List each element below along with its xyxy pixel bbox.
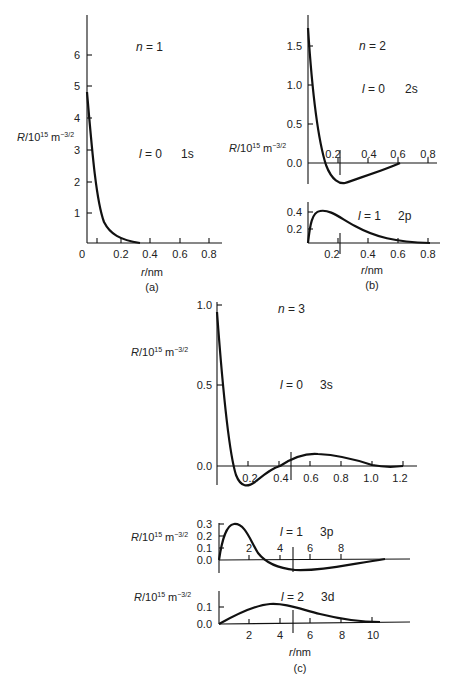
svg-text:0.4: 0.4 — [273, 472, 288, 484]
svg-text:0.8: 0.8 — [420, 248, 435, 260]
svg-text:0.6: 0.6 — [303, 472, 318, 484]
svg-text:1.0: 1.0 — [363, 472, 378, 484]
svg-text:6: 6 — [307, 542, 313, 554]
svg-text:1.5: 1.5 — [287, 40, 302, 52]
y-label-a: R/1015 m−3/2 — [17, 131, 74, 143]
panel-b-2p-labels: 0.4 0.2 0.2 0.4 0.6 0.8 l = 1 2p r/nm (b… — [287, 206, 436, 291]
svg-text:0.5: 0.5 — [197, 379, 212, 391]
svg-text:6: 6 — [307, 629, 313, 641]
l-label-a: l = 0 — [139, 147, 162, 161]
svg-text:6: 6 — [74, 49, 80, 61]
caption-a: (a) — [145, 281, 158, 293]
x-label-a: r/nm — [141, 266, 163, 278]
svg-text:1.0: 1.0 — [287, 79, 302, 91]
orbital-1s: 1s — [181, 147, 194, 161]
panel-b-2s-labels: 0.0 0.5 1.0 1.5 0.2 0.4 0.6 0.8 R/1015 m… — [229, 39, 436, 169]
l-label-3d: l = 2 — [281, 590, 304, 604]
svg-text:0.4: 0.4 — [142, 248, 157, 260]
orbital-3s: 3s — [320, 378, 333, 392]
svg-text:0.8: 0.8 — [420, 148, 435, 160]
svg-text:2: 2 — [74, 176, 80, 188]
svg-text:2: 2 — [246, 542, 252, 554]
svg-text:0.0: 0.0 — [197, 618, 212, 630]
svg-text:3: 3 — [74, 144, 80, 156]
l-label-3s: l = 0 — [280, 378, 303, 392]
orbital-3d: 3d — [321, 590, 334, 604]
svg-text:1.0: 1.0 — [197, 299, 212, 311]
svg-text:0.6: 0.6 — [390, 148, 405, 160]
orbital-2p: 2p — [398, 209, 412, 223]
svg-text:0.8: 0.8 — [333, 472, 348, 484]
orbital-2s: 2s — [405, 82, 418, 96]
svg-text:0: 0 — [79, 248, 85, 260]
svg-text:0.4: 0.4 — [287, 206, 302, 218]
curve-2s — [308, 28, 400, 183]
l-label-2s: l = 0 — [362, 82, 385, 96]
panel-c-3s-labels: 0.0 0.5 1.0 0.2 0.4 0.6 0.8 1.0 1.2 R/10… — [131, 299, 408, 484]
svg-text:0.2: 0.2 — [197, 530, 212, 542]
curve-3s — [217, 312, 403, 485]
svg-text:1.2: 1.2 — [392, 472, 407, 484]
svg-text:0.0: 0.0 — [197, 460, 212, 472]
svg-text:4: 4 — [277, 629, 283, 641]
svg-text:5: 5 — [74, 80, 80, 92]
svg-text:0.0: 0.0 — [287, 157, 302, 169]
y-label-c-3p: R/1015 m−3/2 — [131, 531, 188, 543]
l-label-3p: l = 1 — [280, 525, 303, 539]
n-label-c: n = 3 — [278, 302, 305, 316]
n-label-b: n = 2 — [359, 39, 386, 53]
panel-c-3d-labels: 0.0 0.1 2 4 6 8 10 R/1015 m−3/2 l = 2 3d… — [134, 590, 379, 674]
svg-text:2: 2 — [246, 629, 252, 641]
y-label-b: R/1015 m−3/2 — [229, 142, 286, 154]
caption-b: (b) — [365, 279, 378, 291]
curve-1s — [87, 92, 140, 243]
y-label-c-3d: R/1015 m−3/2 — [134, 591, 191, 603]
svg-text:0.5: 0.5 — [287, 118, 302, 130]
panel-c-3s — [217, 302, 417, 485]
x-label-c: r/nm — [289, 646, 311, 658]
svg-text:8: 8 — [338, 542, 344, 554]
svg-text:8: 8 — [339, 629, 345, 641]
panel-a-labels: 1 2 3 4 5 6 0 0.2 0.4 0.6 0.8 R/1015 m−3… — [17, 40, 217, 293]
panel-c-3d — [219, 591, 410, 633]
n-label-a: n = 1 — [136, 40, 163, 54]
svg-text:0.4: 0.4 — [361, 148, 376, 160]
svg-text:0.0: 0.0 — [197, 554, 212, 566]
l-label-2p: l = 1 — [358, 209, 381, 223]
svg-text:0.2: 0.2 — [287, 223, 302, 235]
orbital-3p: 3p — [320, 525, 334, 539]
curve-3d — [219, 604, 380, 624]
svg-text:0.4: 0.4 — [360, 248, 375, 260]
svg-text:0.6: 0.6 — [172, 248, 187, 260]
svg-text:4: 4 — [277, 542, 283, 554]
svg-text:0.2: 0.2 — [325, 148, 340, 160]
svg-text:0.3: 0.3 — [197, 518, 212, 530]
svg-text:0.2: 0.2 — [242, 472, 257, 484]
svg-text:0.2: 0.2 — [324, 248, 339, 260]
svg-text:0.6: 0.6 — [390, 248, 405, 260]
svg-text:1: 1 — [74, 207, 80, 219]
x-axis-c-3d — [219, 622, 410, 624]
caption-c: (c) — [294, 662, 307, 674]
svg-text:10: 10 — [367, 629, 379, 641]
y-label-c-3s: R/1015 m−3/2 — [131, 346, 188, 358]
figure-canvas: 1 2 3 4 5 6 0 0.2 0.4 0.6 0.8 R/1015 m−3… — [0, 0, 457, 683]
x-label-b: r/nm — [361, 264, 383, 276]
svg-text:0.2: 0.2 — [113, 248, 128, 260]
svg-text:0.1: 0.1 — [197, 542, 212, 554]
svg-text:0.1: 0.1 — [197, 601, 212, 613]
svg-text:4: 4 — [74, 112, 80, 124]
svg-text:0.8: 0.8 — [201, 248, 216, 260]
